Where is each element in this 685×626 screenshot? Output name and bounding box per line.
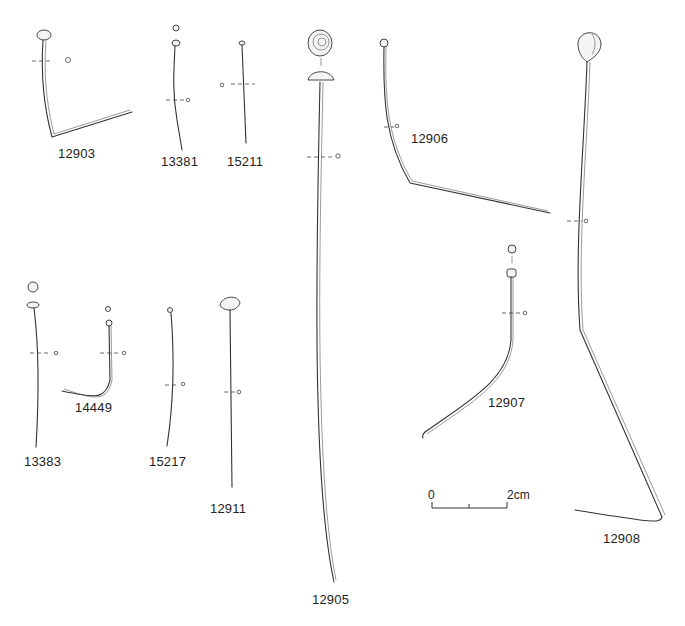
pin-12908-drawing (567, 33, 665, 521)
pin-12905-drawing (307, 30, 340, 582)
scale-end-label: 2cm (507, 488, 530, 502)
label-13383: 13383 (24, 454, 61, 469)
scale-bar (432, 502, 507, 508)
pin-15217-drawing (165, 308, 185, 447)
pin-12911-drawing (220, 297, 241, 487)
scale-start-label: 0 (428, 488, 435, 502)
pin-13383-drawing (27, 282, 58, 447)
label-12903: 12903 (58, 146, 95, 161)
pin-12906-drawing (380, 39, 550, 213)
pin-12903-drawing (32, 30, 132, 137)
label-12908: 12908 (603, 531, 640, 546)
pin-14449-drawing (62, 307, 126, 398)
label-15211: 15211 (227, 154, 263, 169)
label-12911: 12911 (210, 501, 246, 516)
pin-13381-drawing (166, 25, 190, 150)
label-13381: 13381 (161, 154, 198, 169)
label-14449: 14449 (75, 400, 112, 415)
label-12905: 12905 (312, 592, 349, 607)
label-15217: 15217 (149, 454, 186, 469)
illustration-plate: 12903 13381 15211 12905 12906 12908 1338… (0, 0, 685, 626)
label-12907: 12907 (488, 395, 525, 410)
pin-15211-drawing (220, 41, 255, 143)
label-12906: 12906 (411, 131, 448, 146)
